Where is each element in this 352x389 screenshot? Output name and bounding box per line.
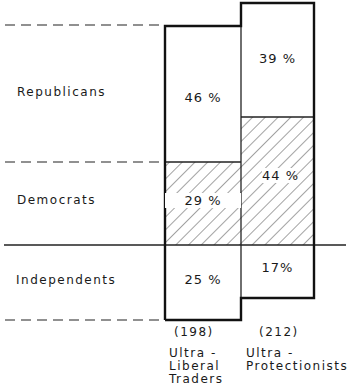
row-label-republicans: Republicans — [17, 85, 106, 99]
bar2-democrats-value: 44 % — [262, 168, 294, 183]
bar1-democrats-value: 29 % — [165, 193, 241, 208]
row-label-independents: Independents — [16, 273, 116, 287]
bar2-republicans-value: 39 % — [241, 51, 314, 66]
bar1-caption-line1: Ultra - — [169, 346, 217, 360]
bar1-independents-value: 25 % — [165, 272, 241, 287]
bar1-caption-line3: Traders — [169, 372, 224, 386]
bar2-independents-value: 17% — [241, 260, 314, 275]
bar2-caption-line2: Protectionists — [246, 359, 348, 373]
bar1-republicans-value: 46 % — [165, 90, 241, 105]
bar1-caption-line2: Liberal — [169, 359, 220, 373]
bar1-sample-size: (198) — [174, 325, 214, 339]
bar2-sample-size: (212) — [259, 325, 299, 339]
bar2-caption-line1: Ultra - — [246, 346, 294, 360]
row-label-democrats: Democrats — [17, 193, 96, 207]
